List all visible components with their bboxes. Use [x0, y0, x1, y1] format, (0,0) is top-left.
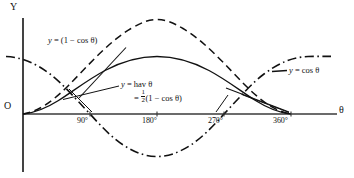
haversine-figure: Y O θ 90° 180° 270° 360° y = (1 − cos θ)…: [0, 0, 354, 178]
curve-label-haversine-eq2: =: [134, 93, 141, 103]
leader-cos: [272, 71, 287, 72]
tick-label-90: 90°: [77, 117, 88, 125]
curve-label-cos-expr: = cos θ: [293, 65, 320, 75]
curve-label-haversine-line2: = 1 2 (1 − cos θ): [121, 89, 182, 103]
y-axis-label: Y: [10, 2, 17, 13]
curve-label-cos: y = cos θ: [289, 66, 319, 75]
leader-haversine: [63, 86, 119, 100]
curve-label-one-minus-cos-expr: = (1 − cos θ): [52, 35, 98, 45]
leader-lower-left: [69, 89, 92, 112]
curve-label-haversine: y = hav θ = 1 2 (1 − cos θ): [121, 80, 182, 104]
curve-label-haversine-theta: θ: [148, 79, 152, 89]
leader-270: [216, 95, 228, 112]
tick-label-180: 180°: [142, 117, 157, 125]
curve-label-haversine-line1: y = hav θ: [121, 79, 152, 89]
tick-label-360: 360°: [273, 117, 288, 125]
tick-label-270: 270°: [208, 117, 223, 125]
origin-label: O: [4, 101, 11, 112]
curve-label-one-minus-cos: y = (1 − cos θ): [48, 36, 97, 45]
curve-label-haversine-expr: (1 − cos θ): [145, 93, 181, 103]
leader-360-lower: [243, 95, 289, 113]
x-axis-label: θ: [339, 105, 344, 116]
